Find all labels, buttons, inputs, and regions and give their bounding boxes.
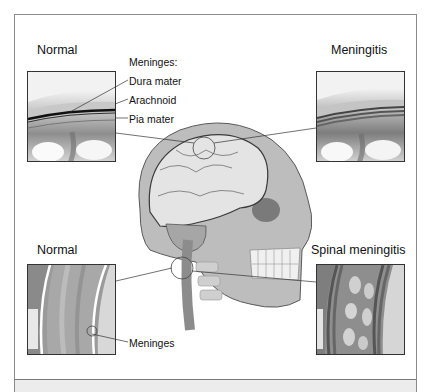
spinal-cord xyxy=(186,240,190,330)
vertebrae xyxy=(196,262,222,300)
head-illustration xyxy=(0,0,430,392)
